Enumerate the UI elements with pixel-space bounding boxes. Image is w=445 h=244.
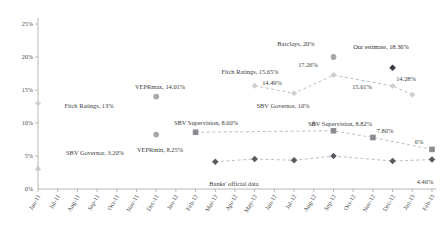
data-label: 7.80%	[377, 127, 394, 134]
x-axis-tick-label: Dec-12	[381, 193, 396, 212]
data-label: SBV Governor, 10%	[256, 102, 310, 109]
data-point	[331, 128, 337, 134]
x-axis-tick-label: Jan-12	[165, 193, 179, 211]
data-label: SBV Supervision, 8.82%	[308, 120, 373, 127]
data-point	[331, 72, 337, 78]
y-axis-tick-label: 0%	[25, 185, 33, 192]
data-label: Banks' official data	[209, 180, 258, 187]
data-label: VEPRmin, 8.25%	[137, 146, 184, 153]
x-axis-tick-label: Apr-12	[223, 193, 238, 212]
data-label: 6%	[415, 138, 424, 145]
data-point	[390, 83, 396, 89]
npl-estimates-scatter-chart: 0%5%10%15%20%25%Jun-11Jul-11Aug-11Sep-11…	[0, 0, 445, 244]
x-axis-tick-label: Jul-12	[284, 193, 298, 210]
data-point	[409, 92, 415, 98]
data-point	[389, 65, 396, 72]
x-axis-tick-label: Jun-11	[27, 193, 41, 211]
data-point	[389, 158, 396, 165]
x-axis-tick-label: Nov-12	[361, 193, 377, 213]
x-axis-tick-label: Jun-12	[263, 193, 277, 211]
data-label: SBV Supervision, 8.60%	[174, 119, 239, 126]
data-point	[252, 83, 258, 89]
data-label: VEPRmax, 14.01%	[135, 83, 186, 90]
x-axis-tick-label: Feb-12	[184, 193, 199, 212]
data-point	[153, 132, 159, 138]
data-label: 14.49%	[262, 79, 282, 86]
data-label: Our estimate, 18.36%	[353, 43, 409, 50]
y-axis-tick-label: 5%	[25, 152, 33, 159]
data-point	[429, 156, 436, 163]
data-point	[330, 153, 337, 160]
data-label: Barclays, 20%	[277, 40, 315, 47]
x-axis-tick-label: Jul-11	[47, 193, 61, 210]
x-axis-tick-label: Oct-11	[106, 193, 121, 211]
y-axis-tick-label: 10%	[22, 119, 33, 126]
data-label: 4.46%	[417, 178, 434, 185]
y-axis-tick-label: 25%	[22, 20, 33, 27]
data-point	[251, 156, 258, 163]
data-point	[193, 129, 199, 135]
data-point	[35, 100, 41, 106]
data-label: Fitch Ratings, 13%	[64, 102, 114, 109]
data-point	[291, 90, 297, 96]
data-point	[331, 54, 337, 60]
data-label: Fitch Ratings, 15.65%	[221, 68, 279, 75]
series-line-1	[196, 131, 432, 150]
data-label: 15.61%	[352, 83, 372, 90]
data-label: SBV Governor, 3.20%	[66, 149, 125, 156]
data-label: 14.28%	[396, 75, 416, 82]
data-point	[370, 135, 376, 141]
x-axis-tick-label: Mar-12	[203, 193, 218, 212]
series-line-0	[215, 156, 432, 162]
x-axis-tick-label: Aug-11	[65, 193, 80, 213]
x-axis-tick-label: Sep-11	[86, 193, 101, 211]
x-axis-tick-label: May-12	[242, 193, 258, 213]
x-axis-tick-label: Feb-13	[421, 193, 436, 212]
x-axis-tick-label: Nov-11	[124, 193, 139, 213]
data-point	[212, 158, 219, 165]
chart-container: 0%5%10%15%20%25%Jun-11Jul-11Aug-11Sep-11…	[0, 0, 445, 244]
data-point	[429, 147, 435, 153]
data-point	[35, 165, 41, 171]
x-axis-tick-label: Sep-12	[322, 193, 337, 212]
data-point	[153, 94, 159, 100]
x-axis-tick-label: Oct-12	[342, 193, 357, 211]
data-point	[291, 157, 298, 164]
data-label: 17.26%	[298, 61, 318, 68]
y-axis-tick-label: 15%	[22, 86, 33, 93]
x-axis-tick-label: Aug-12	[302, 193, 318, 213]
x-axis-tick-label: Dec-11	[145, 193, 160, 212]
x-axis-tick-label: Jan-13	[401, 193, 415, 211]
y-axis-tick-label: 20%	[22, 53, 33, 60]
